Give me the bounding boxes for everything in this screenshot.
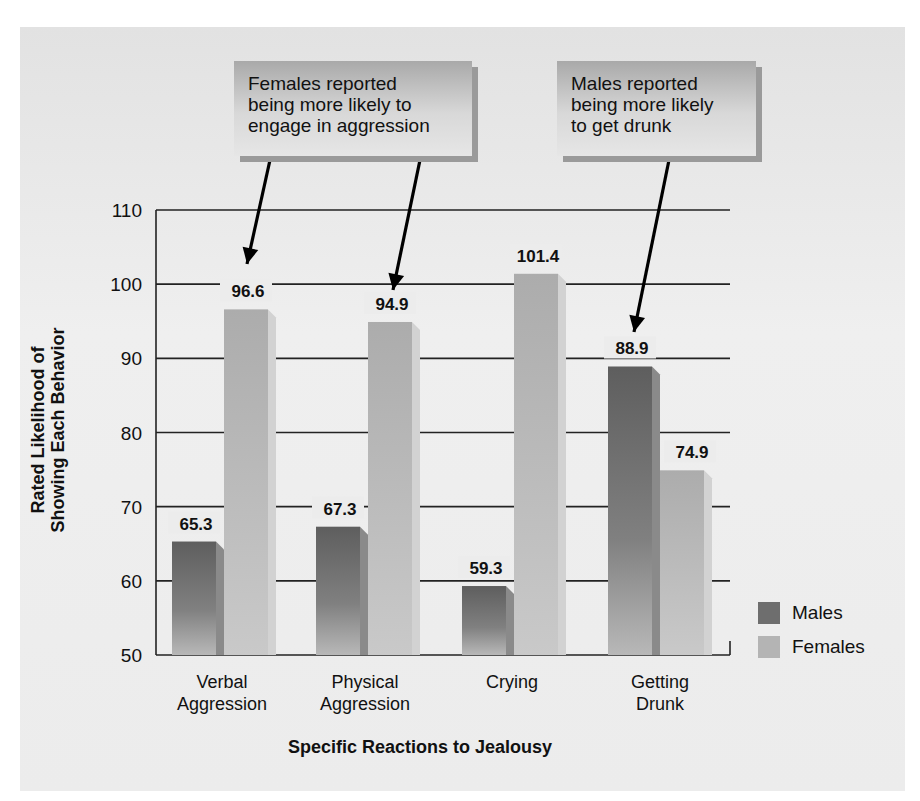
bar-females xyxy=(368,322,420,655)
x-tick-crying: Crying xyxy=(486,671,538,693)
bar-males xyxy=(316,527,368,655)
annotation-line: being more likely to xyxy=(248,94,458,115)
x-tick-verbal-aggression: Verbal Aggression xyxy=(177,671,267,715)
y-tick-label: 90 xyxy=(121,348,142,369)
x-tick-line: Physical xyxy=(320,671,410,693)
x-tick-line: Aggression xyxy=(177,693,267,715)
x-tick-line: Verbal xyxy=(177,671,267,693)
value-label: 74.9 xyxy=(675,443,708,462)
y-axis-title-line: Showing Each Behavior xyxy=(48,327,68,532)
bar-females xyxy=(660,470,712,655)
y-tick-label: 80 xyxy=(121,423,142,444)
x-tick-line: Aggression xyxy=(320,693,410,715)
annotation-males: Males reported being more likely to get … xyxy=(557,61,756,156)
legend-item-males: Males xyxy=(758,596,865,630)
y-tick-label: 100 xyxy=(110,274,142,295)
value-label: 88.9 xyxy=(615,339,648,358)
legend-label: Females xyxy=(792,636,865,658)
value-label: 65.3 xyxy=(179,515,212,534)
value-label: 96.6 xyxy=(231,282,264,301)
annotation-line: being more likely xyxy=(571,94,742,115)
y-tick-label: 70 xyxy=(121,497,142,518)
annotation-females: Females reported being more likely to en… xyxy=(234,61,472,156)
annotation-line: to get drunk xyxy=(571,115,742,136)
x-tick-line: Drunk xyxy=(631,693,689,715)
annotation-line: Males reported xyxy=(571,73,742,94)
y-tick-label: 50 xyxy=(121,645,142,666)
x-tick-line: Getting xyxy=(631,671,689,693)
value-label: 67.3 xyxy=(323,500,356,519)
value-label: 59.3 xyxy=(469,559,502,578)
bar-males xyxy=(608,366,660,655)
annotation-line: engage in aggression xyxy=(248,115,458,136)
x-tick-physical-aggression: Physical Aggression xyxy=(320,671,410,715)
x-tick-getting-drunk: Getting Drunk xyxy=(631,671,689,715)
legend: Males Females xyxy=(758,596,865,664)
y-axis-title-line: Rated Likelihood of xyxy=(28,327,48,532)
bar-females xyxy=(224,309,276,655)
y-tick-label: 110 xyxy=(112,200,142,221)
legend-label: Males xyxy=(792,602,843,624)
annotation-arrows xyxy=(243,160,669,332)
value-label: 101.4 xyxy=(517,247,560,266)
x-tick-line: Crying xyxy=(486,671,538,693)
x-axis-title: Specific Reactions to Jealousy xyxy=(0,737,840,758)
y-tick-label: 60 xyxy=(121,571,142,592)
bar-females xyxy=(514,274,566,655)
value-label: 94.9 xyxy=(375,295,408,314)
annotation-line: Females reported xyxy=(248,73,458,94)
y-axis-title: Rated Likelihood of Showing Each Behavio… xyxy=(28,327,68,532)
legend-swatch-females xyxy=(758,636,780,658)
bars xyxy=(172,274,712,655)
bar-males xyxy=(462,586,514,655)
bar-males xyxy=(172,542,224,655)
legend-swatch-males xyxy=(758,602,780,624)
legend-item-females: Females xyxy=(758,630,865,664)
